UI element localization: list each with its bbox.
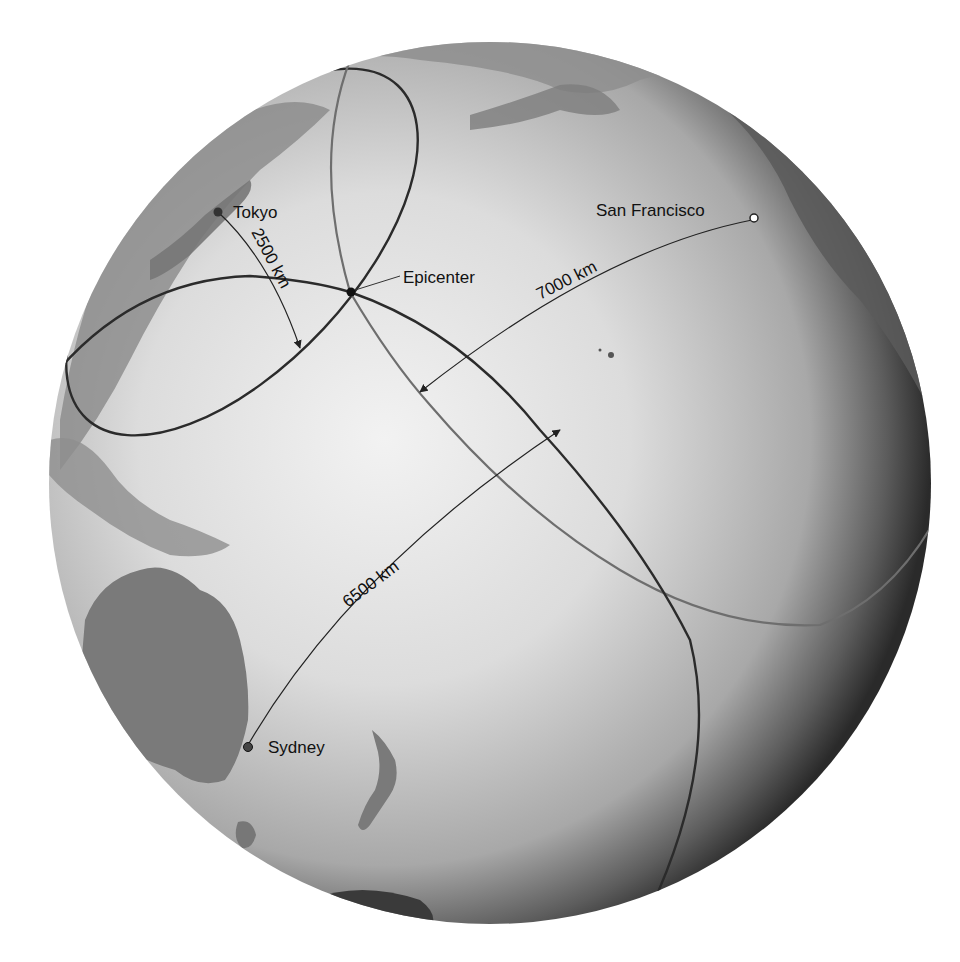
land-hawaii (608, 352, 614, 358)
epicenter-marker (347, 288, 356, 297)
sydney-marker (244, 743, 253, 752)
tokyo-marker (214, 208, 223, 217)
land-hawaii-small (599, 349, 602, 352)
globe-diagram: Tokyo San Francisco Sydney Epicenter 250… (0, 0, 960, 962)
sydney-label: Sydney (268, 738, 325, 757)
epicenter-label: Epicenter (403, 268, 475, 287)
san-francisco-label: San Francisco (596, 201, 705, 220)
san-francisco-marker (750, 214, 758, 222)
tokyo-label: Tokyo (233, 203, 277, 222)
